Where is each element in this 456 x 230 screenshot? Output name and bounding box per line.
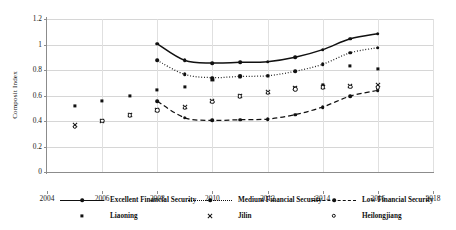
y-axis-tick-label: 0.4 — [33, 117, 42, 124]
legend-item-jilin[interactable]: Jilin — [188, 208, 252, 224]
data-point — [155, 99, 159, 103]
legend-label: Liaoning — [110, 212, 138, 220]
data-point — [238, 118, 242, 122]
data-point — [101, 100, 104, 103]
data-point — [266, 74, 269, 77]
data-point — [73, 104, 76, 107]
y-axis-title: Composit Index — [9, 50, 21, 140]
data-point — [211, 61, 215, 65]
y-axis-tick-label: 1.2 — [33, 15, 42, 22]
series-line-0 — [157, 34, 378, 63]
legend-label: Medium Financial Security — [238, 196, 322, 204]
legend: Excellent Financial Security Medium Fina… — [0, 192, 456, 224]
legend-key-open-circle-marker-icon — [312, 210, 356, 222]
data-point — [266, 117, 270, 121]
data-point — [376, 32, 380, 36]
legend-label: Low Financial Security — [362, 196, 433, 204]
legend-item-medium-financial-security[interactable]: Medium Financial Security — [188, 192, 322, 208]
legend-key-dotted-line-icon — [188, 194, 232, 206]
y-axis-title-text: Composit Index — [12, 71, 19, 119]
data-point — [376, 67, 379, 70]
data-point — [348, 94, 352, 98]
legend-label: Heilongjiang — [362, 212, 402, 220]
data-point — [376, 89, 380, 93]
x-axis-line — [47, 172, 434, 173]
legend-item-excellent-financial-security[interactable]: Excellent Financial Security — [60, 192, 196, 208]
data-point — [238, 61, 242, 65]
data-point — [376, 46, 380, 50]
data-point — [183, 59, 187, 63]
y-axis-tick-label: 0.6 — [33, 92, 42, 99]
y-axis-tick-label: 0.8 — [33, 66, 42, 73]
data-point — [321, 105, 325, 109]
data-point — [156, 88, 159, 91]
chart-container: Composit Index 00.20.40.60.811.2 2004200… — [0, 0, 456, 230]
data-point — [293, 69, 297, 73]
data-point — [348, 51, 352, 55]
data-point — [211, 119, 215, 123]
y-axis-tick-label: 0.2 — [33, 143, 42, 150]
y-axis-tick-label: 1 — [38, 41, 42, 48]
legend-key-square-marker-icon — [60, 210, 104, 222]
legend-key-solid-line-icon — [60, 194, 104, 206]
data-point — [183, 85, 186, 88]
legend-label: Jilin — [238, 212, 252, 220]
y-axis-tick-label: 0 — [38, 168, 42, 175]
data-point — [183, 116, 187, 120]
y-axis-tick-mark — [44, 172, 47, 173]
data-point — [183, 73, 187, 77]
legend-item-low-financial-security[interactable]: Low Financial Security — [312, 192, 433, 208]
legend-key-dashed-line-icon — [312, 194, 356, 206]
data-point — [211, 79, 214, 82]
data-point — [155, 59, 159, 63]
legend-label: Excellent Financial Security — [110, 196, 196, 204]
legend-row-2: Liaoning Jilin Heilongjiang — [0, 208, 456, 224]
legend-item-liaoning[interactable]: Liaoning — [60, 208, 138, 224]
legend-key-x-marker-icon — [188, 210, 232, 222]
data-point — [266, 60, 270, 64]
data-point — [348, 37, 352, 41]
gridline-vertical — [433, 19, 434, 172]
data-point — [321, 62, 325, 66]
data-point — [128, 94, 131, 97]
data-point — [155, 42, 159, 46]
data-point — [321, 48, 325, 52]
legend-item-heilongjiang[interactable]: Heilongjiang — [312, 208, 402, 224]
data-point — [238, 75, 241, 78]
legend-row-1: Excellent Financial Security Medium Fina… — [0, 192, 456, 208]
plot-area: 00.20.40.60.811.2 2004200620082010201220… — [47, 19, 433, 172]
data-point — [293, 55, 297, 59]
data-point — [293, 113, 297, 117]
data-point — [349, 64, 352, 67]
